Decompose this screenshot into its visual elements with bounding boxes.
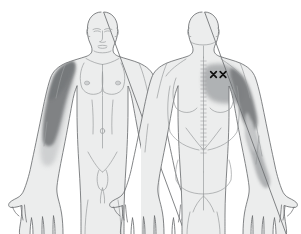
figure-canvas: X X [0,0,301,234]
anatomical-pain-pattern-figure: Referred pain pattern of the shoulder an… [0,0,301,234]
